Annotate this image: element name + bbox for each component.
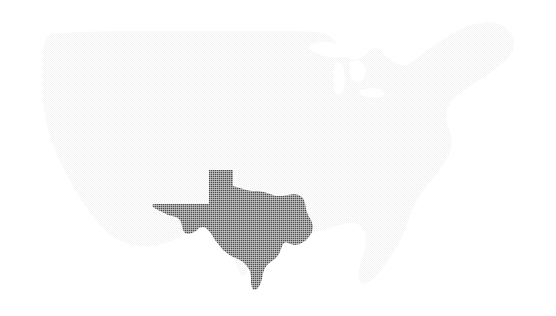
us-map-figure: Texas bbox=[0, 0, 556, 316]
us-map-svg: Texas bbox=[0, 0, 556, 316]
